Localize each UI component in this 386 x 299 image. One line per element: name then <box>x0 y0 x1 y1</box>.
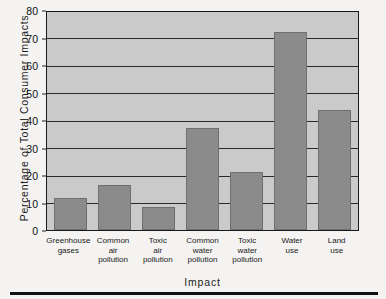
y-tick-label: 50 <box>14 88 38 100</box>
bar-slot <box>224 12 268 230</box>
x-tick-label-line: water <box>225 246 270 256</box>
y-tick-label: 60 <box>14 60 38 72</box>
bar-chart-figure: Percentage of Total Consumer Impacts 010… <box>0 0 386 299</box>
x-tick-label-line: water <box>180 246 225 256</box>
x-axis-tick-labels: GreenhousegasesCommonairpollutionToxicai… <box>46 236 359 278</box>
bar-slot <box>137 12 181 230</box>
y-tick-label: 30 <box>14 143 38 155</box>
x-tick-label-line: gases <box>46 246 91 256</box>
bar[interactable] <box>274 32 307 230</box>
y-tick-label: 20 <box>14 170 38 182</box>
x-tick-label: Commonairpollution <box>91 236 136 278</box>
bar[interactable] <box>54 198 87 230</box>
x-tick-label-line: Toxic <box>135 236 180 246</box>
x-tick-label-line: use <box>314 246 359 256</box>
x-tick-label-line: Toxic <box>225 236 270 246</box>
bar-series <box>47 12 358 230</box>
bottom-rule <box>10 292 378 295</box>
bar-slot <box>268 12 312 230</box>
bar-slot <box>49 12 93 230</box>
x-tick-label-line: Land <box>314 236 359 246</box>
bar[interactable] <box>186 128 219 230</box>
x-tick-label-line: pollution <box>91 255 136 265</box>
y-tick-label: 40 <box>14 115 38 127</box>
x-tick-label: Toxicairpollution <box>135 236 180 278</box>
x-tick-label: Commonwaterpollution <box>180 236 225 278</box>
x-tick-label-line: air <box>91 246 136 256</box>
y-tick-label: 70 <box>14 33 38 45</box>
x-tick-label-line: Common <box>180 236 225 246</box>
x-tick-label: Greenhousegases <box>46 236 91 278</box>
x-axis-title: Impact <box>46 276 359 288</box>
x-tick-label-line: pollution <box>180 255 225 265</box>
bar-slot <box>181 12 225 230</box>
x-tick-label-line: air <box>135 246 180 256</box>
y-axis-tick-labels: 01020304050607080 <box>16 11 42 231</box>
x-tick-label: Wateruse <box>270 236 315 278</box>
bar[interactable] <box>98 185 131 230</box>
x-tick-label-line: Common <box>91 236 136 246</box>
x-tick-label-line: use <box>270 246 315 256</box>
x-tick-label-line: pollution <box>135 255 180 265</box>
bar[interactable] <box>318 110 351 230</box>
y-tick-label: 80 <box>14 5 38 17</box>
y-tick-label: 10 <box>14 198 38 210</box>
bar-slot <box>312 12 356 230</box>
y-tick-label: 0 <box>14 225 38 237</box>
x-tick-label: Toxicwaterpollution <box>225 236 270 278</box>
bar[interactable] <box>142 207 175 230</box>
x-tick-label-line: pollution <box>225 255 270 265</box>
plot-area <box>46 11 359 231</box>
x-tick-label-line: Greenhouse <box>46 236 91 246</box>
x-tick-label-line: Water <box>270 236 315 246</box>
bar-slot <box>93 12 137 230</box>
x-tick-label: Landuse <box>314 236 359 278</box>
bar[interactable] <box>230 172 263 230</box>
